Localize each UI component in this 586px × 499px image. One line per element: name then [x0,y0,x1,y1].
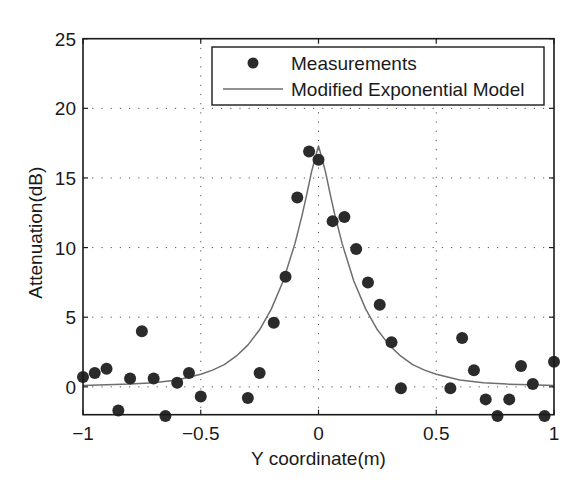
x-tick-label: −0.5 [182,423,220,444]
measurement-point [159,410,171,422]
measurement-point [468,364,480,376]
measurement-point [362,276,374,288]
measurement-point [374,299,386,311]
measurement-point [395,382,407,394]
measurement-point [491,410,503,422]
y-tick-label: 15 [55,168,76,189]
y-tick-label: 0 [65,377,76,398]
measurement-point [89,367,101,379]
measurement-point [313,154,325,166]
measurement-point [291,191,303,203]
measurement-point [171,377,183,389]
measurement-point [280,271,292,283]
measurement-point [195,391,207,403]
y-axis-label: Attenuation(dB) [25,167,46,299]
x-tick-label: 1 [549,423,560,444]
measurement-point [386,336,398,348]
measurement-point [136,325,148,337]
measurement-point [183,367,195,379]
y-tick-label: 25 [55,29,76,50]
legend: Measurements Modified Exponential Model [212,47,544,105]
measurement-point [327,215,339,227]
measurement-point [480,393,492,405]
measurement-point [254,367,266,379]
x-tick-labels: −1−0.500.51 [72,423,559,444]
y-tick-labels: 0510152025 [55,29,76,398]
measurement-point [303,146,315,158]
x-tick-label: 0 [313,423,324,444]
measurement-point [503,393,515,405]
measurement-point [124,372,136,384]
x-tick-label: −1 [72,423,94,444]
y-tick-label: 20 [55,98,76,119]
legend-label-model: Modified Exponential Model [291,79,524,100]
measurement-point [539,410,551,422]
model-line [83,146,554,386]
x-axis-label: Y coordinate(m) [251,448,386,469]
measurement-point [148,372,160,384]
measurement-point [527,378,539,390]
measurement-point [444,382,456,394]
legend-label-measurements: Measurements [291,53,417,74]
x-tick-label: 0.5 [423,423,449,444]
filled-circle-icon [248,58,259,69]
measurement-point [101,363,113,375]
model-curve [83,146,554,386]
y-tick-label: 10 [55,238,76,259]
measurement-point [515,360,527,372]
measurement-point [338,211,350,223]
measurement-point [268,317,280,329]
measurement-point [242,392,254,404]
chart: −1−0.500.51 0510152025 Y coordinate(m) A… [0,0,586,499]
measurement-point [350,243,362,255]
y-tick-label: 5 [65,307,76,328]
measurement-point [456,332,468,344]
